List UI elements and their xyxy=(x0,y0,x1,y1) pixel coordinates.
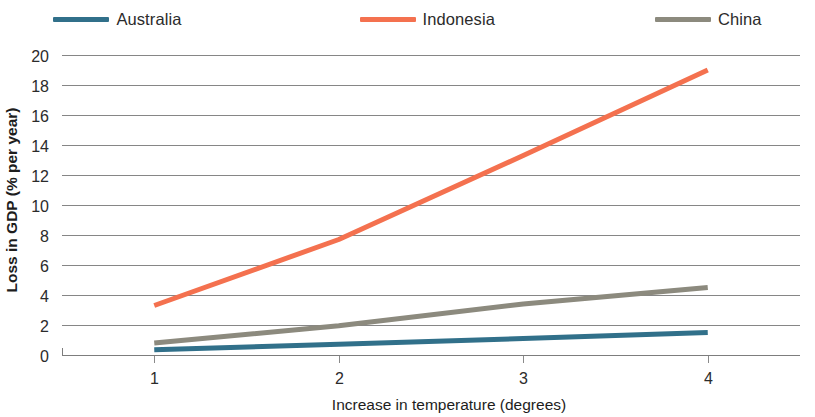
plot-svg: 02468101214161820 1234 Loss in GDP (% pe… xyxy=(0,0,815,417)
x-tick-label: 3 xyxy=(519,370,528,387)
y-tick-label: 16 xyxy=(31,108,49,125)
gridlines xyxy=(62,56,800,326)
gdp-loss-line-chart: Australia Indonesia China 02468101214161… xyxy=(0,0,815,417)
y-tick-label: 14 xyxy=(31,138,49,155)
x-axis-title: Increase in temperature (degrees) xyxy=(332,396,566,413)
x-tick-marks xyxy=(155,355,709,363)
y-tick-labels: 02468101214161820 xyxy=(31,48,49,365)
series-line-indonesia xyxy=(154,70,708,306)
y-tick-label: 18 xyxy=(31,78,49,95)
y-tick-label: 4 xyxy=(40,288,49,305)
y-tick-label: 12 xyxy=(31,168,49,185)
y-tick-label: 20 xyxy=(31,48,49,65)
y-axis-title: Loss in GDP (% per year) xyxy=(3,108,20,293)
x-tick-label: 4 xyxy=(704,370,713,387)
x-tick-label: 2 xyxy=(335,370,344,387)
series-lines xyxy=(154,70,708,350)
y-tick-label: 0 xyxy=(40,348,49,365)
y-tick-label: 6 xyxy=(40,258,49,275)
x-tick-labels: 1234 xyxy=(150,370,713,387)
y-tick-label: 8 xyxy=(40,228,49,245)
y-tick-label: 2 xyxy=(40,318,49,335)
plot-area: 02468101214161820 1234 Loss in GDP (% pe… xyxy=(0,0,815,417)
y-tick-label: 10 xyxy=(31,198,49,215)
x-tick-label: 1 xyxy=(150,370,159,387)
